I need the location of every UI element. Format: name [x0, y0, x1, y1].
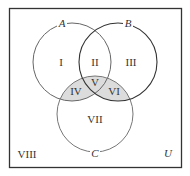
- region-label-v: V: [91, 76, 99, 88]
- region-label-vi: VI: [108, 85, 120, 97]
- venn-diagram: A B C U I II III IV V VI VII VIII: [0, 0, 190, 176]
- set-label-a: A: [58, 17, 66, 29]
- region-label-ii: II: [91, 56, 99, 68]
- set-label-c: C: [91, 147, 99, 159]
- region-label-vii: VII: [87, 113, 103, 125]
- region-label-iii: III: [126, 56, 137, 68]
- set-label-b: B: [125, 17, 132, 29]
- universe-label: U: [164, 147, 173, 159]
- region-label-i: I: [59, 56, 63, 68]
- region-label-viii: VIII: [18, 148, 37, 160]
- region-label-iv: IV: [70, 85, 82, 97]
